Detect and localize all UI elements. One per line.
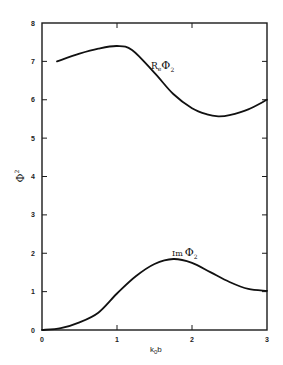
- y-tick-label: 5: [31, 135, 35, 142]
- x-tick-label: 0: [40, 336, 44, 343]
- im-phi2-curve: [42, 259, 267, 330]
- re-phi2-curve: [57, 46, 267, 116]
- y-tick-label: 8: [31, 20, 35, 27]
- x-tick-label: 3: [265, 336, 269, 343]
- y-tick-label: 4: [31, 173, 35, 180]
- x-tick-label: 1: [115, 336, 119, 343]
- y-tick-label: 2: [31, 250, 35, 257]
- x-axis-ticks: 0123: [40, 23, 269, 343]
- svg-text:Φ2: Φ2: [13, 169, 27, 182]
- x-axis-title: k0b: [150, 345, 162, 355]
- y-axis-title: Φ2: [13, 169, 27, 182]
- x-tick-label: 2: [190, 336, 194, 343]
- y-tick-label: 7: [31, 58, 35, 65]
- y-tick-label: 1: [31, 288, 35, 295]
- im-phi2-label: ImΦ2: [172, 246, 198, 260]
- chart: 012345678 0123 ReΦ2 ImΦ2 k0b Φ2: [0, 0, 283, 365]
- y-tick-label: 6: [31, 96, 35, 103]
- y-tick-label: 0: [31, 327, 35, 334]
- y-tick-label: 3: [31, 211, 35, 218]
- curves: [42, 46, 267, 330]
- re-phi2-label: ReΦ2: [151, 59, 174, 73]
